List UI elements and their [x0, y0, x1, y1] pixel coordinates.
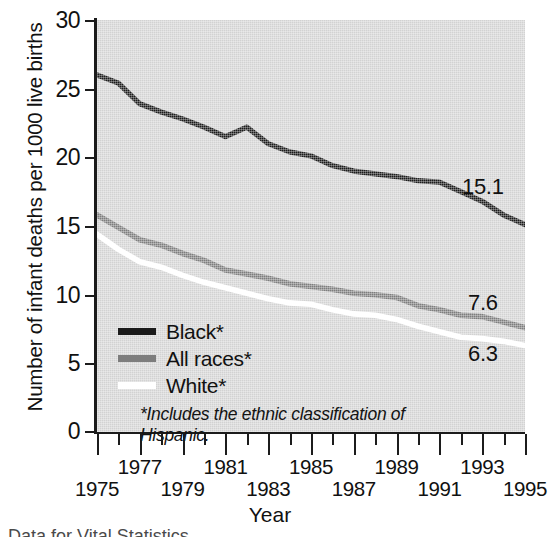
- y-tick-25: [85, 89, 95, 91]
- legend-swatch-all-races-icon: [118, 355, 156, 362]
- x-tick-1992: [461, 434, 463, 445]
- x-tick-label-1979: 1979: [148, 477, 218, 501]
- y-tick-10: [85, 295, 95, 297]
- x-tick-1990: [418, 434, 420, 445]
- legend-item-all-races[interactable]: All races*: [118, 345, 418, 372]
- legend-label-black: Black*: [166, 320, 224, 344]
- legend: Black* All races* White* *Includes the e…: [118, 318, 418, 446]
- y-tick-label-30: 30: [20, 7, 80, 34]
- x-tick-1977: [140, 434, 142, 455]
- x-tick-label-1977: 1977: [105, 455, 175, 479]
- legend-label-white: White*: [166, 374, 226, 398]
- y-tick-20: [85, 157, 95, 159]
- end-label-all-races: 7.6: [468, 290, 498, 316]
- x-tick-1993: [482, 434, 484, 455]
- x-tick-1980: [204, 434, 206, 445]
- x-tick-1989: [397, 434, 399, 455]
- legend-label-all-races: All races*: [166, 347, 252, 371]
- series-line-all-races: [97, 215, 525, 328]
- y-tick-30: [85, 20, 95, 22]
- legend-item-white[interactable]: White*: [118, 372, 418, 399]
- series-line-black: [97, 75, 525, 225]
- x-tick-1987: [354, 434, 356, 455]
- x-tick-label-1983: 1983: [233, 477, 303, 501]
- x-tick-1995: [525, 434, 527, 455]
- x-tick-label-1995: 1995: [490, 477, 552, 501]
- legend-swatch-black-icon: [118, 328, 156, 335]
- y-tick-label-25: 25: [20, 76, 80, 103]
- y-tick-label-15: 15: [20, 213, 80, 240]
- x-tick-label-1981: 1981: [190, 455, 260, 479]
- x-tick-1985: [311, 434, 313, 455]
- y-tick-0: [85, 431, 95, 433]
- figure-caption-clipped: Data for Vital Statistics: [8, 527, 408, 537]
- x-tick-1981: [225, 434, 227, 455]
- x-tick-1991: [439, 434, 441, 455]
- legend-item-black[interactable]: Black*: [118, 318, 418, 345]
- end-label-black: 15.1: [462, 174, 504, 200]
- x-tick-label-1975: 1975: [62, 477, 132, 501]
- x-axis-title: Year: [0, 503, 540, 527]
- x-tick-label-1989: 1989: [362, 455, 432, 479]
- x-tick-1983: [268, 434, 270, 455]
- x-tick-1975: [97, 434, 99, 455]
- x-tick-label-1987: 1987: [319, 477, 389, 501]
- legend-swatch-white-icon: [118, 382, 156, 389]
- y-tick-label-10: 10: [20, 282, 80, 309]
- x-tick-1978: [161, 434, 163, 445]
- y-tick-label-5: 5: [20, 350, 80, 377]
- y-tick-15: [85, 226, 95, 228]
- x-tick-1984: [290, 434, 292, 445]
- end-label-white: 6.3: [468, 341, 498, 367]
- x-tick-1986: [332, 434, 334, 445]
- x-tick-1994: [504, 434, 506, 445]
- x-tick-1982: [247, 434, 249, 445]
- figure-caption-text: Data for Vital Statistics: [8, 527, 408, 537]
- x-tick-label-1993: 1993: [447, 455, 517, 479]
- x-tick-1988: [375, 434, 377, 445]
- y-tick-label-0: 0: [20, 418, 80, 445]
- x-tick-label-1991: 1991: [404, 477, 474, 501]
- x-tick-label-1985: 1985: [276, 455, 346, 479]
- y-tick-5: [85, 363, 95, 365]
- x-tick-1979: [183, 434, 185, 455]
- x-tick-1976: [118, 434, 120, 445]
- y-tick-label-20: 20: [20, 144, 80, 171]
